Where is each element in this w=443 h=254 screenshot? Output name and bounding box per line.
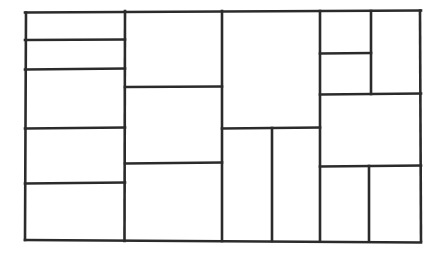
border-left (25, 13, 26, 241)
drawing-canvas (0, 0, 443, 254)
cell-c4-r2 (320, 94, 421, 166)
cell-c4-r1-left-bottom (320, 53, 371, 94)
divider-v-col1-col2 (125, 11, 126, 241)
cell-c4-r3-left (320, 166, 369, 241)
cell-c2-r3 (125, 163, 222, 241)
cell-c1-r2 (25, 40, 125, 69)
partition-diagram (0, 0, 443, 254)
divider-h-c3-1 (222, 128, 320, 129)
divider-h-c1-3 (25, 128, 125, 129)
cell-c2-r1 (125, 11, 222, 87)
divider-h-c1-4 (25, 183, 125, 184)
cell-c4-r1-right (371, 11, 421, 94)
cell-c1-r3 (25, 69, 125, 128)
divider-h-c4-1 (320, 53, 371, 54)
cell-c1-r1 (25, 11, 125, 40)
divider-h-c1-2 (25, 69, 125, 70)
cell-c1-r5 (25, 183, 125, 241)
divider-h-c4-2 (320, 94, 421, 95)
divider-h-c2-2 (125, 163, 222, 164)
cell-c4-r1-left-top (320, 11, 371, 53)
border-right (420, 11, 421, 242)
cell-c1-r4 (25, 128, 125, 183)
divider-h-c1-1 (25, 40, 125, 41)
cell-c2-r2 (125, 87, 222, 163)
divider-h-c4-3 (320, 166, 421, 167)
divider-h-c2-1 (125, 87, 222, 88)
cell-c3-r2-right (272, 128, 320, 241)
cell-c3-r1 (222, 11, 320, 128)
cell-c4-r3-right (369, 166, 421, 241)
cell-c3-r2-left (222, 128, 272, 241)
